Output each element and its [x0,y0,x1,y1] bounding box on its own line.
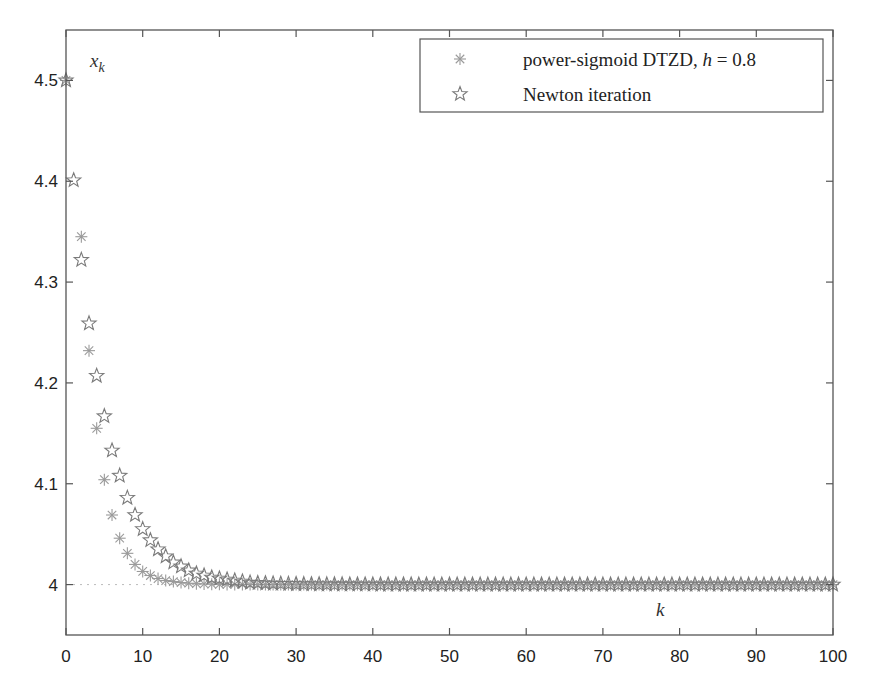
x-axis-label: k [656,599,665,620]
x-tick-label: 80 [670,647,689,666]
y-tick-label: 4.3 [34,273,58,292]
legend: power-sigmoid DTZD, h = 0.8 Newton itera… [420,39,823,112]
y-tick-label: 4 [49,576,58,595]
x-tick-label: 40 [363,647,382,666]
y-axis-label: xk [89,50,105,75]
data-points [59,73,840,591]
axis-ticks: 010203040506070809010044.14.24.34.44.5 [34,30,847,666]
y-tick-label: 4.2 [34,374,58,393]
series-0 [60,74,839,590]
x-tick-label: 70 [593,647,612,666]
series-1 [59,73,840,591]
legend-entry-newton: Newton iteration [523,84,652,105]
x-tick-label: 90 [747,647,766,666]
x-tick-label: 10 [133,647,152,666]
legend-entry-dtzd: power-sigmoid DTZD, h = 0.8 [523,49,756,70]
x-tick-label: 30 [287,647,306,666]
y-tick-label: 4.1 [34,475,58,494]
x-tick-label: 20 [210,647,229,666]
y-tick-label: 4.4 [34,172,58,191]
chart: 010203040506070809010044.14.24.34.44.5 k… [0,0,875,692]
x-tick-label: 100 [819,647,847,666]
x-tick-label: 50 [440,647,459,666]
x-tick-label: 60 [517,647,536,666]
plot-frame [66,30,833,635]
asterisk-icon [454,53,466,65]
y-tick-label: 4.5 [34,71,58,90]
x-tick-label: 0 [61,647,70,666]
